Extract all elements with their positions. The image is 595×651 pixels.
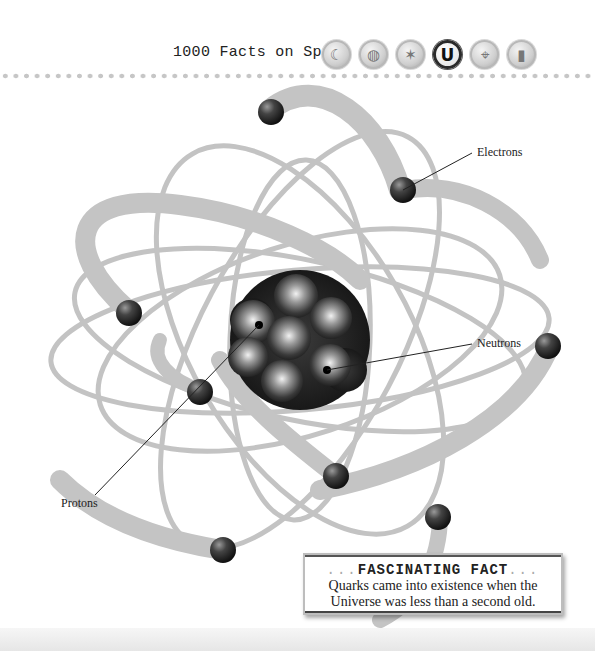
fact-heading-text: FASCINATING FACT bbox=[358, 562, 508, 578]
fact-line-1: Quarks came into existence when the bbox=[305, 578, 561, 594]
neutrons-label: Neutrons bbox=[477, 336, 521, 351]
dots-left: ... bbox=[327, 562, 358, 578]
fact-heading: ...FASCINATING FACT... bbox=[305, 562, 561, 578]
dots-right: ... bbox=[508, 562, 539, 578]
footer-band bbox=[0, 628, 595, 651]
electrons-label: Electrons bbox=[477, 145, 522, 160]
protons-label: Protons bbox=[61, 496, 98, 511]
fact-line-2: Universe was less than a second old. bbox=[305, 594, 561, 610]
fascinating-fact-box: ...FASCINATING FACT... Quarks came into … bbox=[303, 553, 563, 615]
fact-body: Quarks came into existence when the Univ… bbox=[305, 578, 561, 610]
